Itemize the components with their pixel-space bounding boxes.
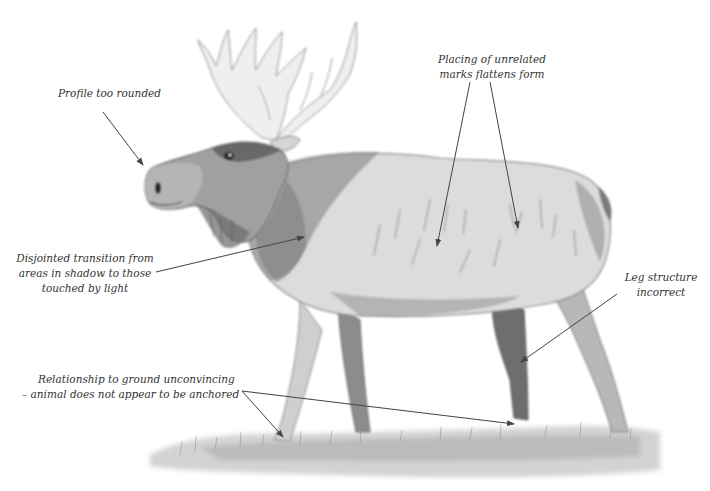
- moose-antlers: [198, 22, 357, 144]
- annotation-line: – animal does not appear to be anchored: [22, 387, 239, 402]
- annotation-line: marks flattens form: [432, 67, 552, 82]
- moose-eye: [224, 152, 234, 160]
- grass-ground: [150, 426, 660, 477]
- annotation-line: Profile too rounded: [58, 86, 161, 101]
- annotation-line: Placing of unrelated: [432, 52, 552, 67]
- arrow-profile: [103, 112, 143, 165]
- annotation-ground: Relationship to ground unconvincing – an…: [22, 372, 239, 402]
- moose-watercolor-illustration: [0, 0, 710, 491]
- annotated-illustration: Profile too rounded Placing of unrelated…: [0, 0, 710, 491]
- annotation-line: touched by light: [10, 281, 160, 296]
- annotation-line: Disjointed transition from: [10, 251, 160, 266]
- annotation-profile: Profile too rounded: [58, 86, 161, 101]
- annotation-line: incorrect: [616, 285, 706, 300]
- annotation-transition: Disjointed transition from areas in shad…: [10, 251, 160, 296]
- annotation-leg: Leg structure incorrect: [616, 270, 706, 300]
- annotation-line: areas in shadow to those: [10, 266, 160, 281]
- annotation-line: Relationship to ground unconvincing: [22, 372, 239, 387]
- annotation-marks: Placing of unrelated marks flattens form: [432, 52, 552, 82]
- annotation-line: Leg structure: [616, 270, 706, 285]
- arrow-ground-left: [242, 391, 283, 437]
